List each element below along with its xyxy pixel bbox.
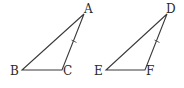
vertex-label-b: B: [10, 64, 19, 78]
vertex-label-f: F: [146, 64, 154, 78]
vertex-label-d: D: [166, 2, 176, 16]
vertex-label-a: A: [83, 2, 93, 16]
triangle-def: D E F: [94, 2, 176, 78]
vertex-label-e: E: [94, 64, 103, 78]
triangle-abc: A B C: [10, 2, 93, 78]
diagram-canvas: A B C D E F: [0, 0, 184, 88]
vertex-label-c: C: [63, 64, 72, 78]
